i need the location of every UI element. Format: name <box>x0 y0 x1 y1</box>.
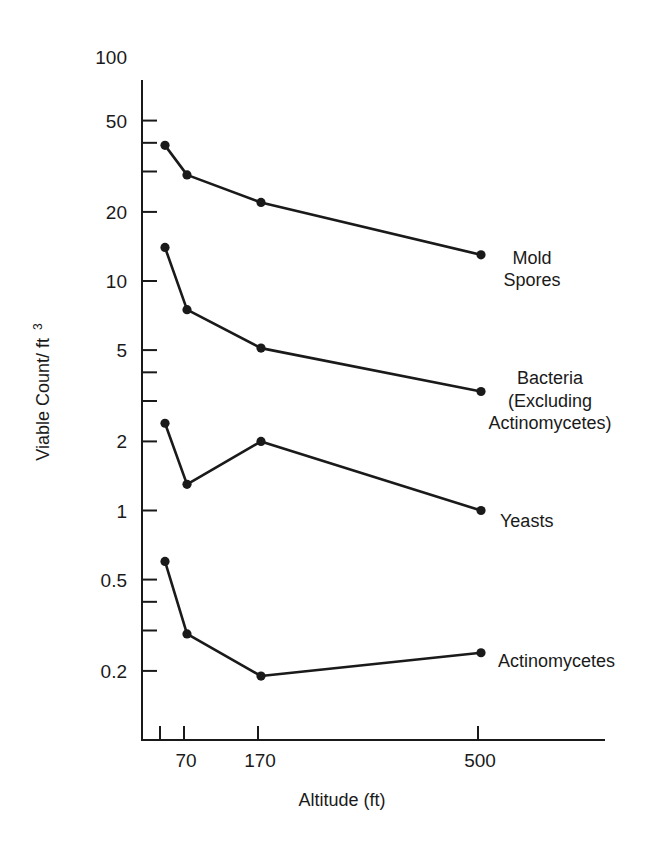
data-point <box>476 648 485 657</box>
data-point <box>476 387 485 396</box>
x-tick-label: 70 <box>175 750 196 771</box>
y-axis-title: Viable Count/ ft 3 <box>31 323 53 461</box>
series-bacteria-excluding-actinomycetes <box>160 243 485 396</box>
series-line <box>165 247 481 391</box>
data-point <box>160 419 169 428</box>
data-point <box>182 480 191 489</box>
x-tick-label: 170 <box>244 750 276 771</box>
series-label: Actinomycetes <box>498 651 615 671</box>
series-mold-spores <box>160 141 485 260</box>
data-point <box>476 506 485 515</box>
y-axis: 1005020105210.50.2 <box>95 47 157 740</box>
series-line <box>165 423 481 510</box>
y-tick-label: 10 <box>106 271 127 292</box>
data-point <box>182 305 191 314</box>
y-axis-title-text: Viable Count/ ft <box>33 338 53 461</box>
y-tick-label: 100 <box>95 47 127 68</box>
y-tick-label: 50 <box>106 111 127 132</box>
data-point <box>182 629 191 638</box>
series-label: Mold <box>512 248 551 268</box>
y-tick-label: 2 <box>116 431 127 452</box>
data-point <box>256 437 265 446</box>
data-point <box>160 557 169 566</box>
data-point <box>160 243 169 252</box>
data-point <box>476 250 485 259</box>
series-yeasts <box>160 419 485 515</box>
data-point <box>256 344 265 353</box>
series-label: Yeasts <box>500 511 553 531</box>
y-tick-label: 0.5 <box>101 570 127 591</box>
data-point <box>160 141 169 150</box>
series-labels: MoldSporesBacteria(ExcludingActinomycete… <box>488 248 615 671</box>
y-tick-label: 20 <box>106 202 127 223</box>
data-point <box>182 170 191 179</box>
x-axis-title: Altitude (ft) <box>298 790 385 810</box>
y-tick-label: 1 <box>116 501 127 522</box>
series-layer <box>160 141 485 681</box>
data-point <box>256 198 265 207</box>
y-tick-label: 5 <box>116 340 127 361</box>
series-label: Bacteria <box>517 368 584 388</box>
series-label: (Excluding <box>508 391 592 411</box>
y-axis-title-superscript: 3 <box>31 323 45 330</box>
y-tick-label: 0.2 <box>101 661 127 682</box>
x-axis: 70170500 <box>141 726 605 771</box>
series-line <box>165 561 481 676</box>
series-actinomycetes <box>160 557 485 681</box>
series-line <box>165 145 481 254</box>
line-chart: 1005020105210.50.2 70170500 MoldSporesBa… <box>0 0 668 857</box>
data-point <box>256 671 265 680</box>
series-label: Spores <box>503 270 560 290</box>
series-label: Actinomycetes) <box>488 413 611 433</box>
x-tick-label: 500 <box>464 750 496 771</box>
